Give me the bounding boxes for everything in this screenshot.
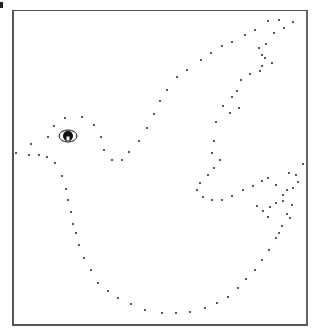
puzzle-dot [269, 206, 271, 208]
puzzle-dot [258, 47, 260, 49]
puzzle-dot [219, 159, 221, 161]
puzzle-dot [278, 232, 280, 234]
puzzle-dot [202, 196, 204, 198]
puzzle-dot [90, 269, 92, 271]
puzzle-dot [271, 62, 273, 64]
puzzle-dot [65, 188, 67, 190]
puzzle-dot [281, 225, 283, 227]
puzzle-dot [189, 311, 191, 313]
puzzle-dot [262, 210, 264, 212]
puzzle-dot [261, 54, 263, 56]
puzzle-dot [166, 89, 168, 91]
puzzle-dot [207, 174, 209, 176]
puzzle-dot [297, 181, 299, 183]
puzzle-dot [221, 199, 223, 201]
puzzle-dot [61, 175, 63, 177]
puzzle-dot [254, 29, 256, 31]
puzzle-dot [282, 200, 284, 202]
puzzle-dot [72, 223, 74, 225]
puzzle-dot [227, 296, 229, 298]
puzzle-dot [278, 19, 280, 21]
puzzle-dot [249, 73, 251, 75]
dot-layer [15, 19, 304, 314]
puzzle-dot [28, 154, 30, 156]
puzzle-dot [138, 140, 140, 142]
puzzle-dot [295, 174, 297, 176]
puzzle-dot [176, 76, 178, 78]
puzzle-dot [196, 189, 198, 191]
puzzle-dot [100, 136, 102, 138]
puzzle-dot [200, 59, 202, 61]
puzzle-dot [186, 69, 188, 71]
puzzle-dot [231, 195, 233, 197]
eye-icon [59, 130, 77, 142]
puzzle-dot [103, 149, 105, 151]
puzzle-dot [222, 105, 224, 107]
puzzle-dot [46, 156, 48, 158]
puzzle-dot [245, 278, 247, 280]
puzzle-dot [273, 32, 275, 34]
puzzle-dot [264, 57, 266, 59]
puzzle-dot [67, 199, 69, 201]
puzzle-dot [213, 140, 215, 142]
puzzle-dot [144, 309, 146, 311]
puzzle-dot [121, 159, 123, 161]
puzzle-dot [286, 213, 288, 215]
puzzle-dot [161, 312, 163, 314]
puzzle-dot [159, 100, 161, 102]
puzzle-dot [97, 282, 99, 284]
puzzle-dot [237, 287, 239, 289]
dove-dot-puzzle [0, 0, 318, 334]
puzzle-dot [261, 65, 263, 67]
puzzle-dot [199, 182, 201, 184]
puzzle-dot [78, 244, 80, 246]
puzzle-dot [47, 136, 49, 138]
puzzle-dot [117, 297, 119, 299]
puzzle-dot [242, 189, 244, 191]
puzzle-dot [128, 151, 130, 153]
puzzle-dot [153, 113, 155, 115]
puzzle-dot [107, 290, 109, 292]
puzzle-dot [268, 249, 270, 251]
puzzle-dot [267, 216, 269, 218]
puzzle-dot [93, 124, 95, 126]
puzzle-dot [244, 34, 246, 36]
puzzle-dot [30, 143, 32, 145]
puzzle-dot [204, 307, 206, 309]
puzzle-dot [288, 172, 290, 174]
puzzle-dot [252, 185, 254, 187]
puzzle-dot [267, 20, 269, 22]
puzzle-dot [265, 43, 267, 45]
puzzle-dot [211, 152, 213, 154]
puzzle-dot [146, 127, 148, 129]
puzzle-dot [289, 217, 291, 219]
puzzle-dot [283, 27, 285, 29]
puzzle-dot [111, 159, 113, 161]
puzzle-dot [211, 199, 213, 201]
puzzle-dot [130, 303, 132, 305]
puzzle-dot [292, 187, 294, 189]
puzzle-dot [238, 107, 240, 109]
puzzle-dot [15, 152, 17, 154]
puzzle-dot [286, 189, 288, 191]
puzzle-dot [231, 96, 233, 98]
puzzle-dot [54, 162, 56, 164]
puzzle-dot [216, 302, 218, 304]
puzzle-dot [231, 41, 233, 43]
puzzle-dot [229, 112, 231, 114]
puzzle-dot [175, 312, 177, 314]
puzzle-dot [81, 116, 83, 118]
puzzle-dot [302, 163, 304, 165]
puzzle-dot [291, 204, 293, 206]
puzzle-dot [275, 237, 277, 239]
puzzle-dot [275, 184, 277, 186]
puzzle-dot [70, 211, 72, 213]
puzzle-dot [292, 21, 294, 23]
puzzle-dot [267, 177, 269, 179]
puzzle-dot [210, 52, 212, 54]
puzzle-dot [282, 194, 284, 196]
puzzle-dot [259, 70, 261, 72]
puzzle-dot [215, 121, 217, 123]
puzzle-dot [38, 154, 40, 156]
puzzle-dot [75, 232, 77, 234]
